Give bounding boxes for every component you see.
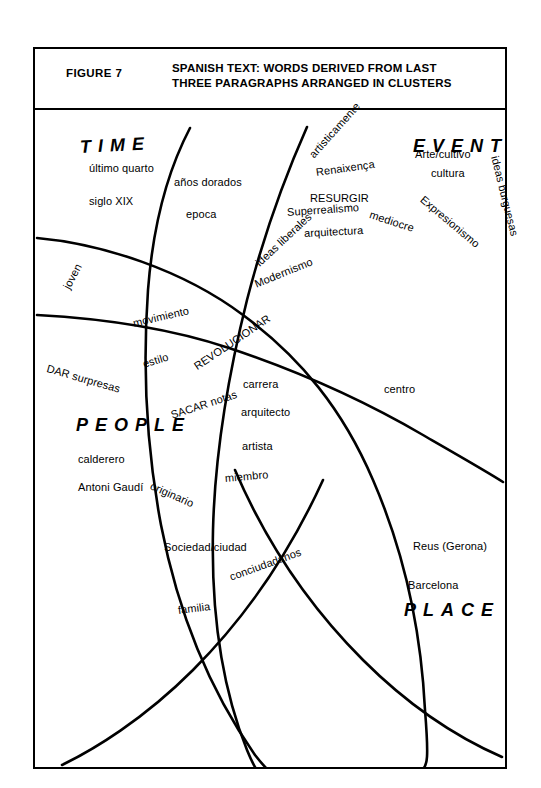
cluster-label-people: PEOPLE <box>76 415 191 436</box>
figure-number-label: FIGURE 7 <box>66 67 122 79</box>
word-label: artista <box>242 440 273 452</box>
cluster-diagram: último quartosiglo XIXaños doradosepocaj… <box>33 110 507 769</box>
cluster-label-event: EVENT <box>413 136 508 157</box>
word-label: años dorados <box>174 176 242 188</box>
word-label: Sociedad/ciudad <box>164 541 247 553</box>
figure-title: SPANISH TEXT: WORDS DERIVED FROM LAST TH… <box>172 61 452 91</box>
word-label: siglo XIX <box>89 195 133 207</box>
word-label: carrera <box>243 378 279 390</box>
word-label: Antoni Gaudí <box>78 481 143 493</box>
word-label: calderero <box>78 453 125 465</box>
time-people-boundary <box>37 238 427 769</box>
cluster-label-place: PLACE <box>404 600 500 621</box>
figure-page: FIGURE 7 SPANISH TEXT: WORDS DERIVED FRO… <box>0 0 541 788</box>
word-label: arquitecto <box>241 406 290 418</box>
word-label: cultura <box>431 167 465 179</box>
word-label: Barcelona <box>408 579 458 591</box>
word-label: último quarto <box>89 162 154 174</box>
lower-left-sweep <box>62 480 323 765</box>
figure-header-band: FIGURE 7 SPANISH TEXT: WORDS DERIVED FRO… <box>33 47 507 110</box>
word-label: centro <box>384 383 415 395</box>
word-label: Reus (Gerona) <box>413 540 487 552</box>
word-label: epoca <box>186 208 216 220</box>
cluster-label-time: TIME <box>79 133 151 158</box>
